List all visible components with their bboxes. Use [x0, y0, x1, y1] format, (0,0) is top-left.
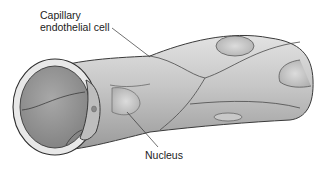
label-cell-line2: endothelial cell: [40, 21, 109, 33]
label-cell-line1: Capillary: [40, 9, 109, 21]
capillary-lumen: [20, 66, 90, 148]
label-capillary-endothelial-cell: Capillary endothelial cell: [40, 9, 109, 33]
nucleolus: [92, 106, 97, 112]
leader-line-cell: [112, 28, 150, 57]
label-nucleus: Nucleus: [145, 149, 183, 161]
nucleus-bump: [216, 36, 254, 56]
nucleus-bump: [214, 113, 242, 121]
